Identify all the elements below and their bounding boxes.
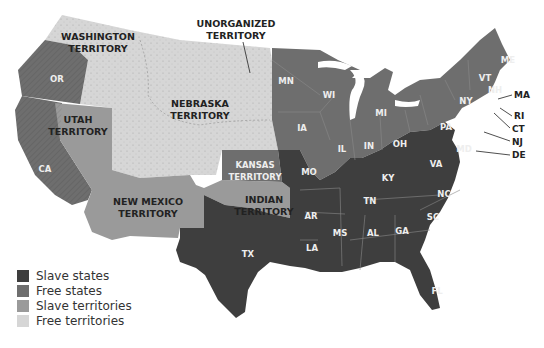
state-label-ct: CT	[512, 124, 526, 134]
state-label-tx: TX	[242, 249, 255, 259]
state-label-wi: WI	[323, 90, 336, 100]
legend-label: Free states	[36, 284, 102, 298]
state-label-ga: GA	[395, 226, 409, 236]
free-states-swatch	[17, 285, 29, 297]
state-label-mn: MN	[278, 76, 294, 86]
indian-territory-label-2: TERRITORY	[234, 206, 293, 217]
state-label-md: MD	[456, 144, 472, 154]
new-mexico-territory-label-1: NEW MEXICO	[113, 196, 183, 207]
state-label-nj: NJ	[512, 137, 523, 147]
indian-territory-label-1: INDIAN	[245, 194, 283, 205]
state-label-ar: AR	[304, 211, 318, 221]
slave-territories-swatch	[17, 300, 29, 312]
state-label-sc: SC	[427, 212, 439, 222]
state-label-ny: NY	[459, 96, 473, 106]
legend-item-free-states: Free states	[17, 283, 132, 298]
state-label-vt: VT	[479, 73, 492, 83]
washington-territory-label-2: TERRITORY	[68, 43, 127, 54]
state-label-ky: KY	[382, 173, 396, 183]
svg-text:TERRITORY: TERRITORY	[48, 126, 107, 137]
kansas-territory-label-2: TERRITORY	[228, 172, 282, 182]
state-label-ia: IA	[297, 123, 307, 133]
svg-text:NEBRASKA: NEBRASKA	[171, 98, 230, 109]
map-legend: Slave states Free states Slave territori…	[17, 268, 132, 328]
state-label-oh: OH	[393, 139, 407, 149]
legend-item-slave-states: Slave states	[17, 268, 132, 283]
new-mexico-territory-label-2: TERRITORY	[118, 208, 177, 219]
svg-text:TERRITORY: TERRITORY	[118, 208, 177, 219]
state-label-nc: NC	[437, 189, 450, 199]
nebraska-territory-label-2: TERRITORY	[170, 110, 229, 121]
svg-text:TERRITORY: TERRITORY	[228, 172, 282, 182]
state-label-va: VA	[430, 159, 443, 169]
utah-territory-label-2: TERRITORY	[48, 126, 107, 137]
legend-item-slave-territories: Slave territories	[17, 298, 132, 313]
state-label-in: IN	[364, 141, 374, 151]
svg-text:UTAH: UTAH	[64, 114, 93, 125]
state-label-nh: NH	[488, 85, 502, 95]
legend-label: Slave territories	[36, 299, 132, 313]
state-label-ca: CA	[39, 164, 52, 174]
unorganized-territory-label-1: UNORGANIZED	[197, 18, 276, 29]
state-label-il: IL	[338, 144, 347, 154]
state-label-ma: MA	[514, 90, 530, 100]
state-label-pa: PA	[440, 122, 452, 132]
svg-text:INDIAN: INDIAN	[245, 194, 283, 205]
state-label-de: DE	[512, 150, 526, 160]
washington-territory-label-1: WASHINGTON	[61, 31, 135, 42]
state-label-ms: MS	[333, 228, 348, 238]
state-label-ri: RI	[514, 111, 524, 121]
svg-text:WASHINGTON: WASHINGTON	[61, 31, 135, 42]
svg-text:TERRITORY: TERRITORY	[170, 110, 229, 121]
state-label-la: LA	[306, 243, 318, 253]
svg-text:KANSAS: KANSAS	[235, 160, 274, 170]
svg-text:UNORGANIZED: UNORGANIZED	[197, 18, 276, 29]
state-label-me: ME	[501, 55, 515, 65]
unorganized-territory-label-2: TERRITORY	[206, 30, 265, 41]
callout-labels: MA RI CT NJ DE	[476, 90, 530, 160]
state-label-tn: TN	[364, 196, 377, 206]
svg-text:NEW MEXICO: NEW MEXICO	[113, 196, 183, 207]
utah-territory-label-1: UTAH	[64, 114, 93, 125]
free-territories-swatch	[17, 315, 29, 327]
svg-text:TERRITORY: TERRITORY	[206, 30, 265, 41]
legend-item-free-territories: Free territories	[17, 313, 132, 328]
state-label-mi: MI	[375, 108, 387, 118]
state-label-al: AL	[367, 228, 380, 238]
state-label-or: OR	[50, 74, 64, 84]
svg-text:TERRITORY: TERRITORY	[234, 206, 293, 217]
legend-label: Slave states	[36, 269, 109, 283]
svg-text:TERRITORY: TERRITORY	[68, 43, 127, 54]
slave-states-swatch	[17, 270, 29, 282]
state-label-fl: FL	[431, 286, 443, 296]
nebraska-territory-label-1: NEBRASKA	[171, 98, 230, 109]
state-label-mo: MO	[301, 167, 317, 177]
kansas-territory-label-1: KANSAS	[235, 160, 274, 170]
legend-label: Free territories	[36, 314, 124, 328]
